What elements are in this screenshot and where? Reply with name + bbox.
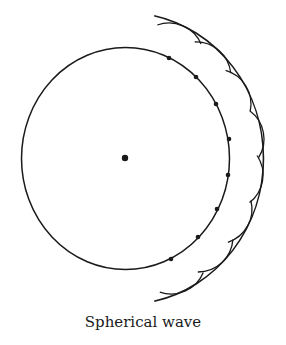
- wavelet-arc: [250, 156, 264, 203]
- secondary-source-dot: [226, 173, 231, 178]
- wavelet-arc: [228, 201, 252, 243]
- secondary-source-points: [167, 56, 232, 262]
- secondary-source-dot: [214, 102, 219, 107]
- secondary-source-dot: [167, 56, 172, 61]
- secondary-source-dot: [169, 257, 174, 262]
- figure-caption: Spherical wave: [0, 313, 286, 331]
- huygens-spherical-wave-diagram: [0, 0, 286, 345]
- secondary-wavelets: [157, 23, 264, 294]
- secondary-source-dot: [227, 137, 232, 142]
- secondary-source-dot: [194, 75, 199, 80]
- wavelet-arc: [157, 23, 201, 44]
- point-source-dot: [122, 155, 128, 161]
- secondary-source-dot: [215, 207, 220, 212]
- secondary-source-dot: [196, 235, 201, 240]
